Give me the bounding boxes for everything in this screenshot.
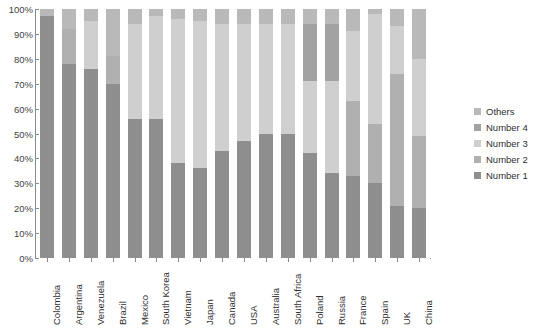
legend-swatch-icon xyxy=(474,124,481,131)
legend-swatch-icon xyxy=(474,156,481,163)
bar-segment xyxy=(40,9,54,16)
chart-legend: OthersNumber 4Number 3Number 2Number 1 xyxy=(474,105,538,185)
bar-segment xyxy=(346,176,360,258)
bar-segment xyxy=(62,29,76,64)
legend-item[interactable]: Number 4 xyxy=(474,121,538,134)
y-axis-tick-label: 10% xyxy=(14,228,33,239)
legend-item[interactable]: Number 1 xyxy=(474,169,538,182)
stacked-bar-chart: 100%90%80%70%60%50%40%30%20%10%0% Others… xyxy=(0,0,541,329)
bar-segment xyxy=(368,14,382,124)
x-axis-tickmark xyxy=(47,258,48,262)
x-axis-label: China xyxy=(423,300,434,325)
y-axis-tickmark xyxy=(35,34,39,35)
x-axis-label: Spain xyxy=(379,301,390,325)
x-axis-tickmark xyxy=(244,258,245,262)
bar-usa[interactable] xyxy=(237,9,251,258)
y-axis-tickmark xyxy=(35,109,39,110)
x-axis-tickmark xyxy=(353,258,354,262)
bar-australia[interactable] xyxy=(259,9,273,258)
y-axis: 100%90%80%70%60%50%40%30%20%10%0% xyxy=(0,0,33,329)
gridline xyxy=(36,258,430,259)
bar-segment xyxy=(346,101,360,176)
x-axis-tickmark xyxy=(375,258,376,262)
x-axis-tickmark xyxy=(332,258,333,262)
y-axis-tick-label: 100% xyxy=(9,4,33,15)
y-axis-tickmark xyxy=(35,9,39,10)
bar-segment xyxy=(215,9,229,24)
bar-brazil[interactable] xyxy=(106,9,120,258)
legend-item[interactable]: Number 3 xyxy=(474,137,538,150)
bar-segment xyxy=(84,69,98,258)
legend-swatch-icon xyxy=(474,140,481,147)
bar-mexico[interactable] xyxy=(128,9,142,258)
bar-segment xyxy=(303,81,317,153)
bar-segment xyxy=(171,9,185,19)
legend-label: Number 1 xyxy=(486,171,528,181)
bar-segment xyxy=(193,9,207,21)
bar-segment xyxy=(193,21,207,168)
x-axis-label: Australia xyxy=(270,288,281,325)
bar-south-korea[interactable] xyxy=(149,9,163,258)
legend-label: Others xyxy=(486,107,515,117)
x-axis-tickmark xyxy=(222,258,223,262)
bar-segment xyxy=(149,9,163,16)
bar-segment xyxy=(303,9,317,24)
y-axis-tick-label: 0% xyxy=(19,253,33,264)
legend-item[interactable]: Number 2 xyxy=(474,153,538,166)
bar-segment xyxy=(106,9,120,56)
bar-segment xyxy=(149,119,163,258)
bar-segment xyxy=(237,24,251,141)
y-axis-tickmark xyxy=(35,258,39,259)
bar-segment xyxy=(325,173,339,258)
bar-poland[interactable] xyxy=(303,9,317,258)
x-axis-label: Poland xyxy=(314,295,325,325)
bar-segment xyxy=(281,134,295,259)
bar-segment xyxy=(237,141,251,258)
legend-item[interactable]: Others xyxy=(474,105,538,118)
y-axis-tick-label: 30% xyxy=(14,178,33,189)
y-axis-tick-label: 60% xyxy=(14,103,33,114)
bar-segment xyxy=(390,9,404,26)
x-axis-label: Argentina xyxy=(73,284,84,325)
bar-argentina[interactable] xyxy=(62,9,76,258)
bar-vietnam[interactable] xyxy=(171,9,185,258)
bar-canada[interactable] xyxy=(215,9,229,258)
bar-segment xyxy=(259,9,273,24)
bar-segment xyxy=(193,168,207,258)
bar-segment xyxy=(40,16,54,258)
x-axis-label: Colombia xyxy=(51,285,62,325)
bar-china[interactable] xyxy=(412,9,426,258)
x-axis-label: Venezuela xyxy=(95,281,106,325)
y-axis-tick-label: 70% xyxy=(14,78,33,89)
y-axis-tick-label: 20% xyxy=(14,203,33,214)
bar-france[interactable] xyxy=(346,9,360,258)
bar-segment xyxy=(237,9,251,24)
x-axis-label: UK xyxy=(401,312,412,325)
y-axis-tickmark xyxy=(35,208,39,209)
x-axis-tickmark xyxy=(113,258,114,262)
bar-segment xyxy=(281,24,295,134)
bar-south-africa[interactable] xyxy=(281,9,295,258)
bar-japan[interactable] xyxy=(193,9,207,258)
bar-uk[interactable] xyxy=(390,9,404,258)
x-axis-label: Canada xyxy=(226,292,237,325)
bar-colombia[interactable] xyxy=(40,9,54,258)
x-axis-label: Vietnam xyxy=(182,290,193,325)
x-axis-label: USA xyxy=(248,305,259,325)
bar-russia[interactable] xyxy=(325,9,339,258)
x-axis-tickmark xyxy=(419,258,420,262)
bar-segment xyxy=(390,26,404,73)
legend-label: Number 3 xyxy=(486,139,528,149)
x-axis-tickmark xyxy=(266,258,267,262)
bar-segment xyxy=(303,153,317,258)
legend-label: Number 4 xyxy=(486,123,528,133)
bar-venezuela[interactable] xyxy=(84,9,98,258)
bar-segment xyxy=(215,151,229,258)
legend-swatch-icon xyxy=(474,172,481,179)
bar-spain[interactable] xyxy=(368,9,382,258)
bar-segment xyxy=(346,9,360,31)
x-axis-label: South Africa xyxy=(292,274,303,325)
x-axis-label: South Korea xyxy=(160,272,171,325)
plot-area xyxy=(36,9,430,258)
y-axis-tickmark xyxy=(35,59,39,60)
